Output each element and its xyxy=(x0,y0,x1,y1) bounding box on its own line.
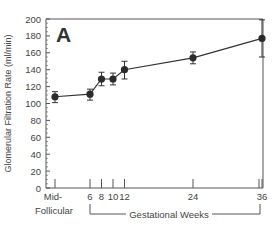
y-tick-label: 140 xyxy=(25,64,41,75)
y-tick-label: 120 xyxy=(25,81,41,92)
x-tick-label: 36 xyxy=(257,191,268,202)
data-point xyxy=(109,75,116,82)
y-tick-label: 160 xyxy=(25,47,41,58)
plot-border xyxy=(46,19,263,188)
x-tick-label: 6 xyxy=(87,191,92,202)
y-tick-label: 80 xyxy=(30,115,41,126)
data-point xyxy=(258,35,265,42)
x-tick-label: Mid- xyxy=(44,191,62,202)
x-tick-label: 24 xyxy=(188,191,199,202)
y-tick-label: 100 xyxy=(25,98,41,109)
y-tick-label: 60 xyxy=(30,132,41,143)
x-axis-title-group: Gestational Weeks xyxy=(129,209,209,220)
plot-frame xyxy=(46,19,263,188)
data-point xyxy=(98,75,105,82)
y-tick-label: 200 xyxy=(25,14,41,25)
data-point xyxy=(189,54,196,61)
y-tick-label: 0 xyxy=(36,183,41,194)
data-point xyxy=(121,66,128,73)
panel-label: A xyxy=(56,23,71,46)
y-tick-label: 20 xyxy=(30,166,41,177)
x-tick-label: Follicular xyxy=(35,205,73,216)
series-line xyxy=(55,38,262,96)
x-tick-label: 8 xyxy=(99,191,104,202)
x-axis-title: Gestational Weeks xyxy=(129,209,209,220)
y-tick-label: 40 xyxy=(30,149,41,160)
data-point xyxy=(51,93,58,100)
bracket-right xyxy=(212,204,260,214)
gfr-line-chart: 020406080100120140160180200 Mid-Follicul… xyxy=(0,0,280,230)
y-axis-title: Glomerular Filtration Rate (ml/min) xyxy=(3,34,13,172)
bracket-left xyxy=(90,204,126,214)
data-point xyxy=(86,91,93,98)
y-tick-label: 180 xyxy=(25,30,41,41)
x-tick-label: 12 xyxy=(119,191,130,202)
data-series xyxy=(51,20,265,103)
x-tick-label: 10 xyxy=(108,191,119,202)
